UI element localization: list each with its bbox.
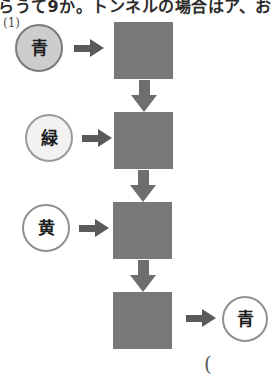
flow-circle-3: 黄	[22, 204, 70, 252]
arrow-right-icon-4	[186, 309, 216, 327]
flow-circle-3-label: 黄	[38, 220, 55, 237]
flow-circle-1: 青	[15, 24, 63, 72]
arrow-head	[130, 185, 156, 202]
flow-square-4	[113, 292, 172, 349]
flow-square-3	[113, 202, 172, 259]
arrow-head	[90, 39, 104, 57]
cropped-header-text: らうて9か。トンネルの場合はア、お	[0, 0, 277, 19]
arrow-head	[130, 275, 156, 292]
arrow-head	[131, 95, 157, 112]
question-number: (1)	[3, 17, 20, 29]
flow-square-1	[114, 22, 173, 79]
flow-square-2	[114, 112, 173, 169]
arrow-down-icon-2	[130, 170, 156, 202]
trailing-open-paren: (	[204, 354, 212, 374]
arrow-right-icon-2	[82, 129, 112, 147]
arrow-head	[202, 309, 216, 327]
flow-result-circle-label: 青	[237, 311, 254, 328]
header-text: らうて9か。トンネルの場合はア、お	[0, 0, 277, 17]
flow-circle-2-label: 緑	[41, 130, 58, 147]
arrow-right-icon-1	[74, 39, 104, 57]
scanned-worksheet-page: らうて9か。トンネルの場合はア、お (1) 青 緑 黄	[0, 0, 277, 390]
flow-result-circle: 青	[222, 296, 268, 342]
arrow-head	[95, 219, 109, 237]
arrow-right-icon-3	[79, 219, 109, 237]
arrow-down-icon-3	[130, 260, 156, 292]
flow-circle-1-label: 青	[31, 40, 48, 57]
arrow-head	[98, 129, 112, 147]
arrow-down-icon-1	[131, 80, 157, 112]
flow-circle-2: 緑	[25, 114, 73, 162]
